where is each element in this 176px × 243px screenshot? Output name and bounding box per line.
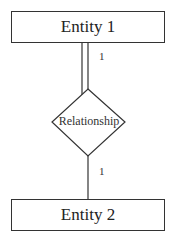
relationship-label: Relationship xyxy=(52,114,126,129)
entity-2-box[interactable]: Entity 2 xyxy=(11,199,165,231)
cardinality-bottom: 1 xyxy=(99,165,105,177)
entity-1-box[interactable]: Entity 1 xyxy=(11,11,165,43)
entity-2-label: Entity 2 xyxy=(61,205,115,225)
er-diagram-canvas: Entity 1 Relationship 1 1 Entity 2 xyxy=(0,0,176,243)
cardinality-top: 1 xyxy=(99,50,105,62)
entity-1-label: Entity 1 xyxy=(61,17,115,37)
